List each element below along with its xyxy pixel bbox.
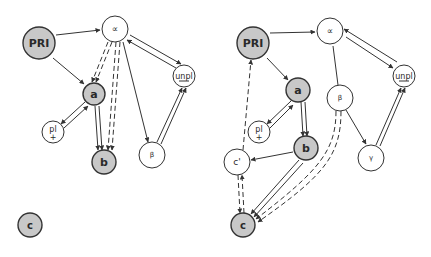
node-alpha: ∝ — [102, 16, 128, 42]
node-PRI: PRI — [23, 27, 55, 59]
dashed-edge — [242, 175, 244, 213]
node-PRI: PRI — [237, 27, 269, 59]
solid-edge — [346, 110, 366, 144]
node-sublabel: + — [50, 133, 57, 142]
node-unpl: unpl — [173, 65, 195, 87]
solid-edge — [123, 42, 148, 142]
solid-edge — [380, 88, 405, 146]
node-sublabel: + — [256, 133, 263, 142]
solid-edge — [333, 46, 338, 85]
node-c: c — [18, 213, 42, 237]
right-diagram: PRI∝aunplβpl+bγc'c — [224, 18, 415, 237]
solid-edge — [376, 88, 401, 145]
node-label: b — [100, 156, 108, 169]
left-diagram: PRI∝aunplpl+bβc — [18, 16, 195, 237]
node-label: c — [27, 220, 33, 231]
node-c: c — [231, 213, 255, 237]
solid-edge — [157, 88, 182, 142]
solid-edge — [53, 58, 84, 84]
solid-edge — [130, 35, 181, 64]
solid-edge — [270, 105, 293, 128]
node-label: ∝ — [327, 26, 333, 36]
node-label: β — [338, 94, 342, 102]
node-b: b — [92, 150, 116, 174]
dashed-edge — [108, 42, 116, 150]
node-label: a — [294, 84, 301, 97]
solid-edge — [267, 58, 288, 80]
solid-edge — [305, 102, 307, 136]
solid-edge — [344, 29, 397, 62]
solid-edge — [267, 101, 291, 124]
solid-edge — [61, 102, 85, 124]
node-label: unpl — [395, 72, 412, 81]
node-label: c — [240, 220, 246, 231]
node-a: a — [83, 83, 105, 105]
solid-edge — [95, 106, 98, 150]
network-diagrams: PRI∝aunplpl+bβc PRI∝aunplβpl+bγc'c — [0, 0, 431, 257]
node-a: a — [286, 78, 310, 102]
solid-edge — [301, 102, 303, 136]
node-label: ∝ — [112, 24, 118, 34]
dashed-edge — [96, 42, 112, 82]
node-b: b — [294, 136, 318, 160]
solid-edge — [254, 163, 303, 217]
solid-edge — [99, 106, 102, 150]
solid-edge — [346, 37, 393, 68]
node-label: PRI — [29, 37, 50, 50]
node-unpl: unpl — [393, 65, 415, 87]
solid-edge — [127, 40, 176, 68]
dashed-edge — [92, 42, 108, 82]
node-label: c' — [233, 157, 240, 167]
solid-edge — [64, 106, 88, 128]
solid-edge — [251, 152, 293, 160]
node-cprime: c' — [224, 149, 250, 175]
node-label: β — [150, 151, 154, 159]
node-label: a — [90, 88, 97, 101]
node-label: γ — [369, 154, 373, 162]
solid-edge — [56, 30, 100, 35]
node-pl: pl+ — [248, 121, 270, 143]
node-label: PRI — [243, 37, 264, 50]
solid-edge — [270, 32, 315, 33]
node-gamma: γ — [358, 145, 384, 171]
node-beta: β — [327, 85, 353, 111]
diagram-canvas: PRI∝aunplpl+bβc PRI∝aunplβpl+bγc'c — [0, 0, 431, 257]
node-pl: pl+ — [42, 121, 64, 143]
dashed-edge — [238, 175, 240, 213]
node-beta: β — [139, 142, 165, 168]
node-label: b — [302, 142, 310, 155]
solid-edge — [161, 88, 186, 144]
dashed-edge — [112, 42, 120, 150]
node-alpha: ∝ — [317, 18, 343, 44]
node-label: unpl — [175, 72, 192, 81]
solid-edge — [251, 160, 299, 214]
